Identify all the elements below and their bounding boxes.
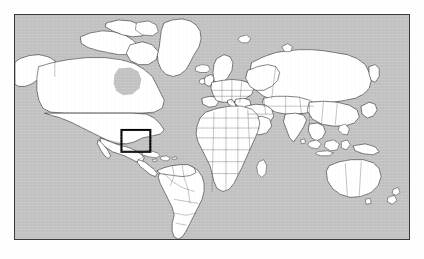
land-tasmania [365, 198, 371, 204]
world-map [15, 15, 409, 239]
land-sri-lanka [301, 139, 306, 144]
figure-root [0, 0, 424, 259]
map-frame [14, 14, 410, 240]
